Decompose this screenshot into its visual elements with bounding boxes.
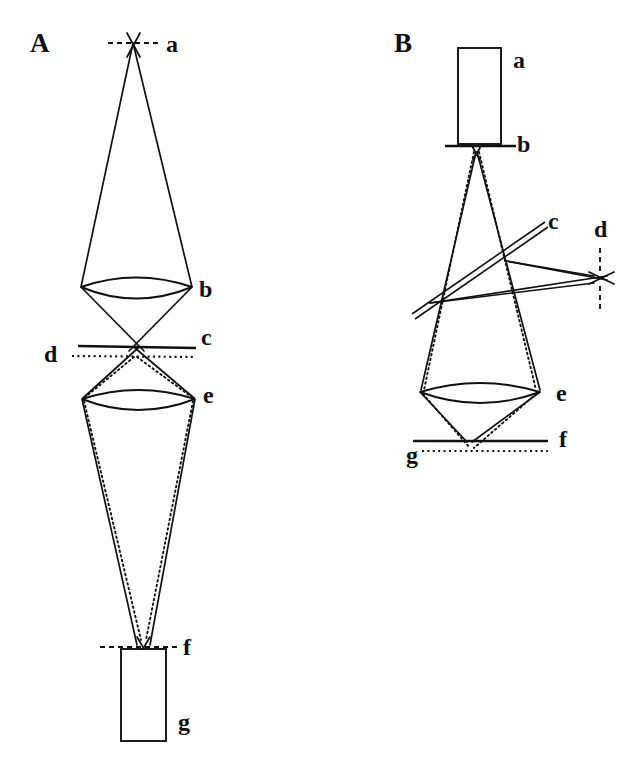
lens-b-bottom-arc	[81, 287, 192, 299]
panel-b-offaxis-rays	[430, 261, 607, 303]
panel-a-lower-cone	[82, 399, 195, 645]
lens-e-top-arc-b	[420, 383, 540, 392]
beam-splitter-c-line-2	[415, 227, 548, 319]
ray-a-to-b-right	[133, 43, 192, 287]
panel-b: B	[394, 28, 614, 468]
panel-a: A	[30, 28, 214, 741]
panel-b-label-c: c	[548, 208, 559, 234]
panel-a-lens-e	[82, 390, 195, 410]
panel-a-label-f: f	[183, 634, 192, 660]
panel-a-label-c: c	[201, 324, 212, 350]
panel-b-converging-cone	[420, 392, 540, 448]
panel-b-label-f: f	[559, 426, 568, 452]
ray-to-d-upper-2	[506, 261, 594, 276]
ray-a-to-b-left	[81, 43, 133, 287]
panel-b-label-b: b	[517, 131, 530, 157]
ray-e-to-f-right-dotted	[146, 401, 193, 640]
beam-splitter-c-line-1	[412, 222, 545, 314]
panel-a-converging-rays-bc	[81, 287, 192, 351]
panel-a-upper-cone	[81, 43, 192, 287]
lens-b-top-arc	[81, 278, 192, 288]
panel-a-lens-b	[81, 278, 192, 299]
figure-root: A	[0, 0, 638, 775]
panel-a-label-b: b	[199, 276, 212, 302]
panel-a-letter: A	[30, 28, 50, 58]
panel-a-detector-block-g	[121, 649, 166, 741]
panel-b-beam-splitter-c	[412, 222, 548, 319]
panel-b-lens-e	[420, 383, 540, 403]
panel-b-letter: B	[394, 28, 412, 58]
panel-a-label-e: e	[203, 382, 214, 408]
ray-e-to-f-left	[82, 399, 137, 645]
lens-e-bottom-arc	[82, 399, 195, 410]
ray-e-to-f-left-dotted	[84, 401, 141, 640]
lens-e-top-arc	[82, 390, 195, 399]
ray-b-to-e-right	[477, 152, 540, 390]
ray-e-to-f-right-b	[472, 392, 540, 442]
panel-b-label-d: d	[594, 216, 608, 242]
ray-e-to-f-right	[150, 399, 195, 645]
ray-b-to-e-left-dotted	[424, 152, 474, 390]
panel-a-plane-c	[78, 346, 196, 348]
panel-b-label-a: a	[513, 47, 525, 73]
panel-a-label-a: a	[166, 31, 178, 57]
ray-b-to-e-right-dotted	[479, 152, 536, 390]
panel-a-label-d: d	[44, 341, 58, 367]
panel-b-label-e: e	[556, 380, 567, 406]
optical-diagram-svg: A	[0, 0, 638, 775]
panel-b-source-block-a	[458, 48, 501, 144]
panel-b-label-g: g	[406, 442, 418, 468]
panel-b-diverging-cone	[421, 152, 540, 390]
panel-a-label-g: g	[178, 709, 190, 735]
lens-e-bottom-arc-b	[420, 392, 540, 403]
